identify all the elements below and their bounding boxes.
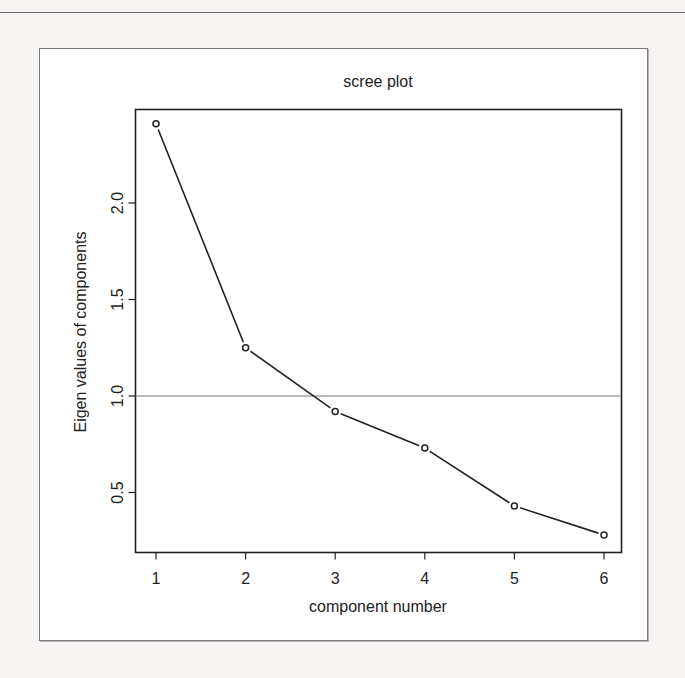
x-tick-label: 1 bbox=[152, 570, 161, 587]
figure-page: scree plot 123456 0.51.01.52.0 component… bbox=[0, 0, 685, 678]
x-tick-label: 3 bbox=[331, 570, 340, 587]
series-segment bbox=[430, 451, 510, 502]
y-tick-label: 1.5 bbox=[109, 288, 126, 310]
x-tick-label: 2 bbox=[241, 570, 250, 587]
data-point-circle-icon bbox=[511, 503, 517, 509]
y-tick-label: 1.0 bbox=[109, 385, 126, 407]
x-axis-ticks: 123456 bbox=[152, 553, 609, 588]
y-tick-label: 2.0 bbox=[109, 192, 126, 214]
data-point-circle-icon bbox=[153, 121, 159, 127]
series-segment bbox=[250, 351, 330, 408]
data-point-circle-icon bbox=[422, 445, 428, 451]
series-segment bbox=[520, 508, 598, 533]
x-tick-label: 6 bbox=[600, 570, 609, 587]
data-point-circle-icon bbox=[601, 532, 607, 538]
chart-title: scree plot bbox=[343, 73, 413, 90]
y-tick-label: 0.5 bbox=[109, 481, 126, 503]
x-tick-label: 4 bbox=[420, 570, 429, 587]
y-axis-label: Eigen values of components bbox=[72, 231, 89, 432]
data-point-markers bbox=[153, 121, 607, 538]
y-axis-ticks: 0.51.01.52.0 bbox=[109, 192, 136, 504]
scree-plot-chart: scree plot 123456 0.51.01.52.0 component… bbox=[0, 0, 685, 678]
data-point-circle-icon bbox=[243, 345, 249, 351]
plot-area-border bbox=[136, 110, 622, 553]
series-segment bbox=[341, 414, 419, 446]
x-axis-label: component number bbox=[309, 598, 448, 615]
x-tick-label: 5 bbox=[510, 570, 519, 587]
series-segment bbox=[158, 129, 243, 342]
data-point-circle-icon bbox=[332, 408, 338, 414]
